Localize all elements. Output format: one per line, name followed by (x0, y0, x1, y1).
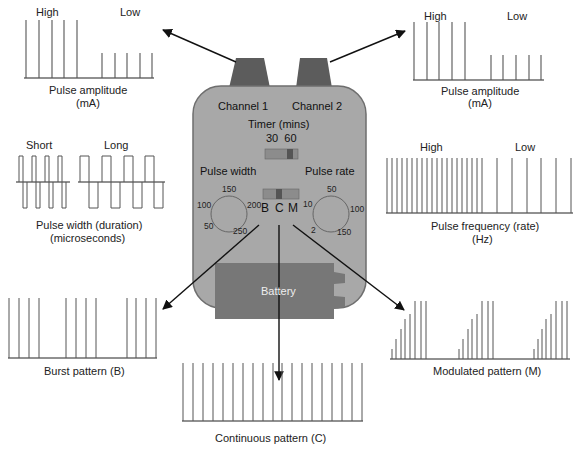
freq-low: Low (515, 141, 535, 154)
rate-dial-150: 150 (337, 226, 351, 239)
pulse-width-waveform (16, 156, 165, 208)
frequency-waveform (386, 158, 573, 213)
freq-unit: (Hz) (472, 233, 493, 246)
channel1-label: Channel 1 (218, 100, 268, 113)
width-dial-100: 100 (197, 199, 211, 212)
burst-caption: Burst pattern (B) (44, 365, 125, 378)
width-dial-250: 250 (233, 225, 247, 238)
channel1-connector (229, 58, 270, 88)
amp-right-high: High (424, 10, 447, 23)
rate-dial-50: 50 (327, 183, 336, 196)
amp-left-caption: Pulse amplitude (49, 84, 127, 97)
width-unit: (microseconds) (50, 232, 125, 245)
timer-values: 30 60 (266, 132, 297, 145)
pulse-rate-label: Pulse rate (305, 165, 355, 178)
channel2-label: Channel 2 (292, 100, 342, 113)
mode-c-label: C (275, 202, 284, 215)
battery-label: Battery (261, 285, 296, 298)
width-long: Long (104, 139, 128, 152)
burst-waveform (8, 298, 157, 358)
amp-left-high: High (36, 6, 59, 19)
amp-left-unit: (mA) (76, 97, 100, 110)
width-dial-150: 150 (222, 183, 236, 196)
rate-dial-10: 10 (303, 198, 312, 211)
width-short: Short (26, 139, 52, 152)
modulated-waveform (390, 301, 570, 359)
modulated-caption: Modulated pattern (M) (433, 365, 541, 378)
channel2-connector (296, 58, 332, 88)
freq-high: High (420, 141, 443, 154)
mode-b-label: B (261, 202, 269, 215)
rate-dial-2: 2 (311, 224, 316, 237)
continuous-caption: Continuous pattern (C) (215, 432, 326, 445)
amp-right-unit: (mA) (468, 97, 492, 110)
timer-switch (265, 149, 298, 159)
amp-left-low: Low (120, 6, 140, 19)
amp-right-waveform (413, 22, 544, 80)
amp-right-low: Low (507, 10, 527, 23)
amp-left-waveform (24, 20, 154, 78)
continuous-waveform (182, 363, 363, 421)
mode-m-label: M (288, 202, 298, 215)
width-caption: Pulse width (duration) (36, 219, 142, 232)
width-dial-200: 200 (247, 199, 261, 212)
timer-title: Timer (mins) (248, 118, 309, 131)
freq-caption: Pulse frequency (rate) (431, 220, 539, 233)
pulse-width-label: Pulse width (200, 165, 256, 178)
rate-dial-100: 100 (350, 203, 364, 216)
width-dial-50: 50 (204, 220, 213, 233)
